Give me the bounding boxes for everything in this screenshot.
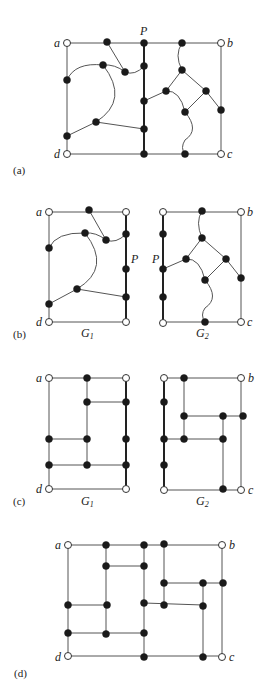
terminal-b — [218, 40, 225, 47]
panel-c: a b c d G1 G2 (c) — [13, 371, 254, 509]
label-g1: G1 — [81, 494, 94, 509]
label-d: d — [55, 650, 62, 664]
label-c: c — [229, 650, 235, 664]
panel-label-b: (b) — [13, 328, 26, 341]
label-g2: G2 — [196, 494, 209, 509]
label-b: b — [227, 36, 233, 50]
label-d: d — [54, 147, 61, 161]
graph-decomposition-figure: a b c d P (a) — [0, 0, 271, 700]
panel-label-d: (d) — [14, 667, 27, 680]
label-a: a — [54, 36, 60, 50]
panel-label-a: (a) — [13, 164, 26, 177]
label-c: c — [247, 315, 253, 329]
label-c: c — [227, 147, 233, 161]
label-b: b — [229, 538, 235, 552]
panel-d: a b c d (d) — [14, 538, 235, 680]
panel-a: a b c d P (a) — [13, 24, 233, 177]
label-g1: G1 — [81, 326, 94, 341]
label-p-left-graph: P — [130, 252, 139, 266]
label-c: c — [248, 483, 254, 497]
label-g2: G2 — [196, 326, 209, 341]
terminal-d — [64, 151, 71, 158]
label-p-right-graph: P — [151, 252, 160, 266]
label-p: P — [139, 24, 148, 38]
label-a: a — [36, 371, 42, 385]
label-b: b — [248, 371, 254, 385]
terminal-a — [64, 40, 71, 47]
label-d: d — [36, 482, 43, 496]
label-a: a — [36, 205, 42, 219]
label-b: b — [247, 205, 253, 219]
label-d: d — [36, 315, 43, 329]
panel-label-c: (c) — [13, 495, 26, 508]
panel-b: a b c d P P G1 G2 (b) — [13, 205, 253, 341]
label-a: a — [55, 538, 61, 552]
terminal-c — [218, 151, 225, 158]
